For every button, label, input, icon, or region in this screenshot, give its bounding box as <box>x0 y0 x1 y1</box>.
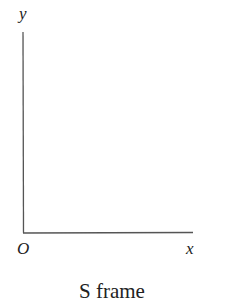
y-axis-line <box>23 32 24 233</box>
y-axis-label: y <box>19 5 27 22</box>
x-axis-line <box>23 233 193 234</box>
axes-graphic <box>0 0 225 307</box>
x-axis-label: x <box>186 240 194 257</box>
frame-caption: S frame <box>79 281 145 302</box>
origin-label: O <box>17 240 29 257</box>
coordinate-frame-diagram: y O x S frame <box>0 0 225 307</box>
